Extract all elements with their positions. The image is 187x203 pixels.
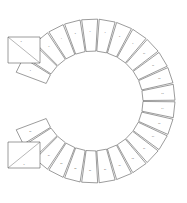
arms-group: ab [8,37,40,168]
drawing-canvas: 1234567891011121314151617181920212223242… [0,0,187,203]
c-ring-assembly-diagram: 1234567891011121314151617181920212223242… [0,0,187,203]
